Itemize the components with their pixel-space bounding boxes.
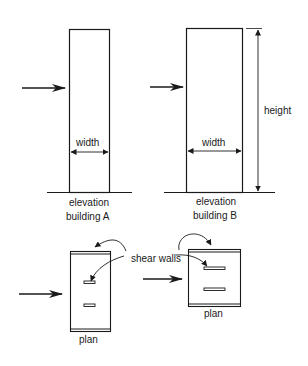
building-b-name-label: building B — [193, 211, 237, 221]
building-a-width-label: width — [76, 138, 99, 148]
building-b-elevation — [150, 29, 275, 193]
shear-wall — [84, 281, 95, 284]
plan-a-outline — [71, 252, 111, 332]
leader-arrow-icon — [95, 240, 126, 251]
building-b-height-label: height — [264, 106, 291, 116]
building-a-view-label: elevation — [69, 198, 109, 208]
building-b-view-label: elevation — [196, 197, 236, 207]
plan-a-label: plan — [79, 335, 98, 345]
building-a-outline — [70, 30, 110, 193]
plan-b-label: plan — [204, 309, 223, 319]
leader-arrow-icon — [179, 234, 211, 250]
plan-a — [19, 252, 111, 332]
shear-walls-label: shear walls — [131, 254, 181, 264]
leader-arrow-icon — [91, 256, 124, 281]
building-a-elevation — [22, 30, 132, 193]
shear-wall — [204, 267, 225, 270]
building-b-outline — [187, 29, 243, 193]
diagram-canvas — [0, 0, 308, 366]
building-b-width-label: width — [202, 138, 225, 148]
shear-wall — [84, 304, 95, 307]
building-a-name-label: building A — [66, 212, 109, 222]
shear-wall — [204, 288, 225, 291]
